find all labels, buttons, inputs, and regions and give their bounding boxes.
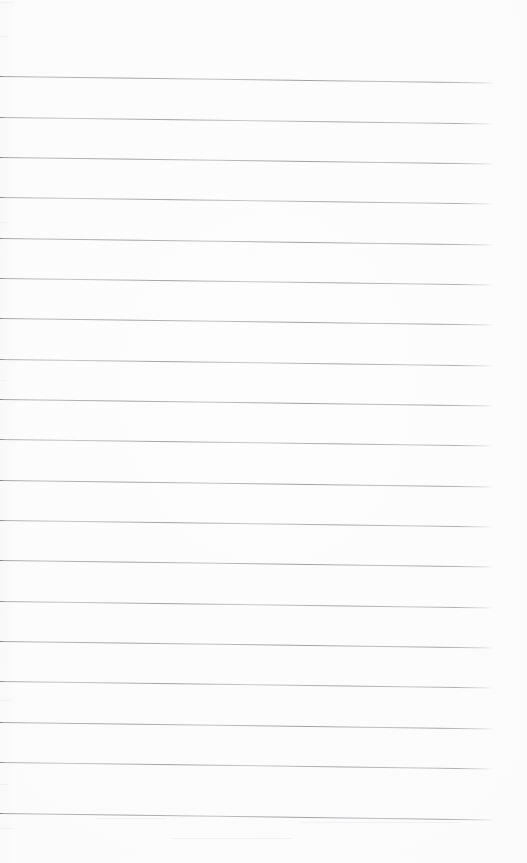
paper-texture	[0, 0, 527, 863]
scanned-page	[0, 0, 527, 863]
ruled-line	[0, 318, 494, 325]
ruled-line	[0, 813, 494, 820]
ruled-line	[0, 480, 494, 487]
ruled-line	[0, 641, 494, 648]
ruled-line	[0, 359, 494, 366]
ruled-line	[0, 722, 494, 729]
ruled-line	[0, 520, 494, 527]
ruled-line	[0, 117, 494, 124]
ruled-line	[0, 762, 494, 769]
ruled-line	[0, 601, 494, 608]
scan-noise-overlay	[0, 0, 527, 863]
ruled-line	[0, 157, 494, 164]
ruled-line	[0, 197, 494, 204]
ruled-line	[0, 238, 494, 245]
ruled-line	[0, 681, 494, 688]
ruled-line	[0, 278, 494, 285]
ruled-line	[0, 76, 494, 83]
ruled-line	[0, 560, 494, 567]
ruled-line	[0, 399, 494, 406]
ruled-line	[0, 439, 494, 446]
